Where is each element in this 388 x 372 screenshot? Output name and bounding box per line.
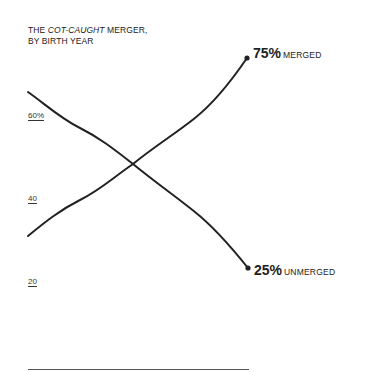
merged-value: 75% bbox=[253, 45, 281, 61]
merged-end-dot bbox=[244, 55, 249, 60]
plot-area bbox=[0, 0, 388, 372]
unmerged-end-dot bbox=[245, 265, 250, 270]
unmerged-label: 25%UNMERGED bbox=[254, 261, 335, 279]
merged-text: MERGED bbox=[283, 50, 322, 60]
unmerged-line bbox=[28, 92, 248, 268]
merged-line bbox=[28, 58, 247, 236]
x-axis-baseline bbox=[28, 369, 249, 370]
unmerged-text: UNMERGED bbox=[284, 267, 335, 277]
merged-label: 75%MERGED bbox=[253, 44, 322, 62]
unmerged-value: 25% bbox=[254, 262, 282, 278]
